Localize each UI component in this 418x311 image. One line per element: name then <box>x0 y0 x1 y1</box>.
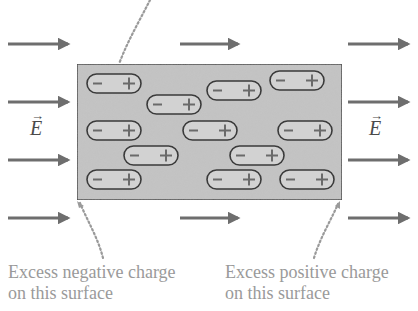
dipole <box>207 170 261 189</box>
caption-negative-line-2: on this surface <box>8 283 176 304</box>
field-label-right: → E <box>369 117 381 140</box>
dipole <box>278 121 332 140</box>
caption-positive-line-2: on this surface <box>225 283 389 304</box>
dipole <box>183 121 237 140</box>
caption-positive-line-1: Excess positive charge <box>225 262 389 283</box>
caption-positive-surface: Excess positive charge on this surface <box>225 262 389 304</box>
dipole <box>124 146 178 165</box>
dipole <box>87 121 141 140</box>
vector-arrow-icon: → <box>31 108 44 124</box>
dipole <box>207 81 261 100</box>
dipole <box>230 146 284 165</box>
dipole <box>280 170 334 189</box>
dipole <box>87 170 141 189</box>
field-label-left: → E <box>30 117 42 140</box>
dipole <box>87 74 141 93</box>
pointer-top-dotted-line <box>119 0 150 64</box>
pointer-negative-dotted-line <box>80 203 103 258</box>
vector-arrow-icon: → <box>370 108 383 124</box>
caption-negative-line-1: Excess negative charge <box>8 262 176 283</box>
molecular-dipoles <box>87 71 334 189</box>
caption-negative-surface: Excess negative charge on this surface <box>8 262 176 304</box>
dipole <box>147 95 201 114</box>
pointer-positive-dotted-line <box>314 204 338 258</box>
dipole <box>270 71 324 90</box>
